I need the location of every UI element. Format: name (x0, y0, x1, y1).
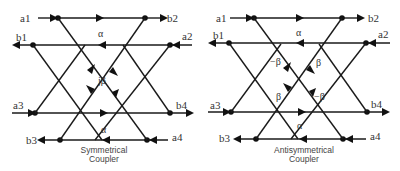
arrow-icon (299, 135, 307, 143)
arrow-icon (98, 41, 106, 49)
port-label-b4: b4 (371, 98, 383, 110)
arrow-icon (382, 108, 390, 116)
port-label-b2: b2 (368, 12, 379, 24)
through-label-top: α (98, 28, 104, 39)
arrow-icon (112, 89, 119, 98)
coupling-label-lower-left: β (276, 91, 281, 102)
arrow-icon (186, 109, 194, 117)
coupling-line-b4 (319, 44, 367, 112)
coupling-label-upper-right: β (316, 57, 321, 68)
caption-line-2: Coupler (289, 154, 319, 164)
through-label-bottom: α (101, 124, 107, 135)
symmetrical-coupler: a1 b2 b1 a2 a3 b4 b3 a4 α α jβ Symmetric… (12, 12, 194, 164)
coupling-label-upper-left: −β (270, 56, 281, 67)
port-label-b3: b3 (26, 134, 38, 146)
caption-line-2: Coupler (89, 154, 119, 164)
port-label-a2: a2 (378, 28, 388, 40)
arrow-icon (298, 108, 306, 116)
coupling-label: jβ (97, 75, 106, 86)
arrow-icon (87, 64, 95, 74)
arrow-icon (357, 14, 365, 22)
arrow-icon (96, 14, 104, 22)
arrow-icon (296, 14, 304, 22)
arrow-icon (149, 136, 157, 144)
arrow-icon (296, 39, 304, 47)
coupler-diagrams: a1 b2 b1 a2 a3 b4 b3 a4 α α jβ Symmetric… (0, 0, 400, 171)
arrow-icon (172, 41, 180, 49)
arrow-icon (100, 109, 108, 117)
through-label-bottom: α (297, 120, 303, 131)
coupling-line-a3 (35, 45, 85, 113)
through-label-top: α (296, 27, 302, 38)
port-label-b4: b4 (176, 99, 188, 111)
port-label-a4: a4 (370, 130, 381, 142)
antisymmetrical-coupler: a1 b2 b1 a2 a3 b4 b3 a4 α α −β β β −β An… (208, 12, 390, 164)
coupling-line-a3 (231, 44, 281, 112)
port-label-a4: a4 (172, 131, 183, 143)
coupling-label-lower-right: −β (314, 91, 325, 102)
port-label-a3: a3 (13, 99, 24, 111)
coupling-line-b4 (123, 45, 170, 113)
arrow-icon (345, 135, 353, 143)
arrow-icon (368, 39, 376, 47)
port-label-a1: a1 (20, 12, 30, 24)
port-label-b3: b3 (219, 132, 231, 144)
arrow-icon (102, 136, 110, 144)
port-label-b1: b1 (16, 31, 27, 43)
port-label-a3: a3 (210, 99, 221, 111)
arrow-icon (37, 136, 45, 144)
port-label-b1: b1 (213, 29, 224, 41)
arrow-icon (233, 135, 241, 143)
port-label-b2: b2 (167, 12, 178, 24)
port-label-a2: a2 (182, 30, 192, 42)
port-label-a1: a1 (216, 12, 226, 24)
